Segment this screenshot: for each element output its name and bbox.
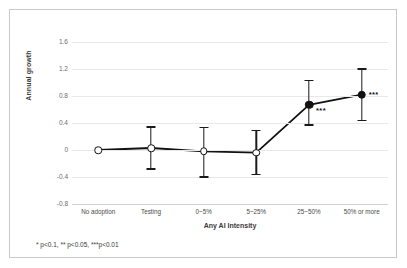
y-tick-label: 0	[64, 147, 68, 154]
y-tick-label: 1.6	[59, 39, 68, 46]
gridline	[72, 177, 388, 178]
data-point-marker[interactable]	[95, 146, 103, 154]
x-tick-label: 50% or more	[344, 209, 380, 215]
y-tick-label: 1.2	[59, 66, 68, 73]
x-axis-line	[72, 204, 388, 205]
chart-screenshot: Annual growth 1.61.20.80.40-0.4-0.8 ****…	[0, 0, 407, 268]
gridline	[72, 123, 388, 124]
x-axis-tick-labels: No adoptionTesting0~5%5~25%25~50%50% or …	[72, 209, 388, 221]
gridline	[72, 150, 388, 151]
error-bar-cap	[147, 168, 156, 169]
data-point-marker[interactable]	[305, 101, 314, 110]
error-bar-cap	[199, 127, 208, 128]
significance-marker: ***	[369, 91, 379, 99]
x-tick-label: 5~25%	[246, 209, 266, 215]
y-axis-tick-labels: 1.61.20.80.40-0.4-0.8	[46, 42, 68, 204]
error-bar-cap	[252, 130, 261, 131]
gridline	[72, 42, 388, 43]
y-tick-label: -0.8	[57, 201, 68, 208]
x-tick-label: 25~50%	[297, 209, 320, 215]
x-tick-label: No adoption	[81, 209, 115, 215]
x-axis-title: Any AI Intensity	[72, 222, 388, 229]
error-bar-cap	[305, 124, 314, 125]
error-bar-cap	[305, 80, 314, 81]
error-bar-cap	[357, 68, 366, 69]
data-point-marker[interactable]	[200, 148, 208, 156]
chart-frame: Annual growth 1.61.20.80.40-0.4-0.8 ****…	[9, 9, 397, 258]
y-axis-title: Annual growth	[25, 26, 32, 126]
data-point-marker[interactable]	[147, 144, 155, 152]
error-bar-cap	[147, 126, 156, 127]
error-bar-cap	[357, 120, 366, 121]
x-tick-label: 0~5%	[196, 209, 212, 215]
error-bar-cap	[252, 174, 261, 175]
significance-marker: ***	[316, 107, 326, 115]
y-tick-label: 0.8	[59, 93, 68, 100]
y-tick-label: -0.4	[57, 174, 68, 181]
x-tick-label: Testing	[141, 209, 161, 215]
plot-area: ******	[72, 42, 388, 204]
gridline	[72, 69, 388, 70]
y-tick-label: 0.4	[59, 120, 68, 127]
gridline	[72, 96, 388, 97]
significance-footnote: * p<0.1, ** p<0.05, ***p<0.01	[36, 241, 119, 248]
data-point-marker[interactable]	[357, 90, 366, 99]
error-bar-cap	[199, 176, 208, 177]
data-point-marker[interactable]	[253, 149, 261, 157]
